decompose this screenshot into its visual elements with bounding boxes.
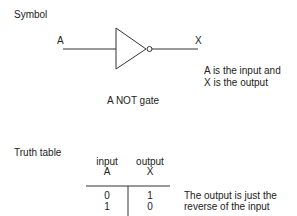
symbol-note-line1: A is the input and [204,65,281,77]
not-gate-diagram [0,0,297,216]
truth-table-heading: Truth table [14,147,61,159]
symbol-note-line2: X is the output [204,77,268,89]
input-label-a: A [57,35,64,47]
table-cell-r1-input: 1 [92,201,122,213]
truth-table-note-line2: reverse of the input [184,201,270,213]
symbol-heading: Symbol [14,9,47,21]
col-header-output-var: X [132,166,168,178]
gate-caption: A NOT gate [107,95,159,107]
not-gate-triangle [116,28,146,69]
col-header-input-var: A [92,166,122,178]
inversion-bubble [147,47,152,52]
output-label-x: X [195,35,202,47]
table-cell-r1-output: 0 [132,201,168,213]
